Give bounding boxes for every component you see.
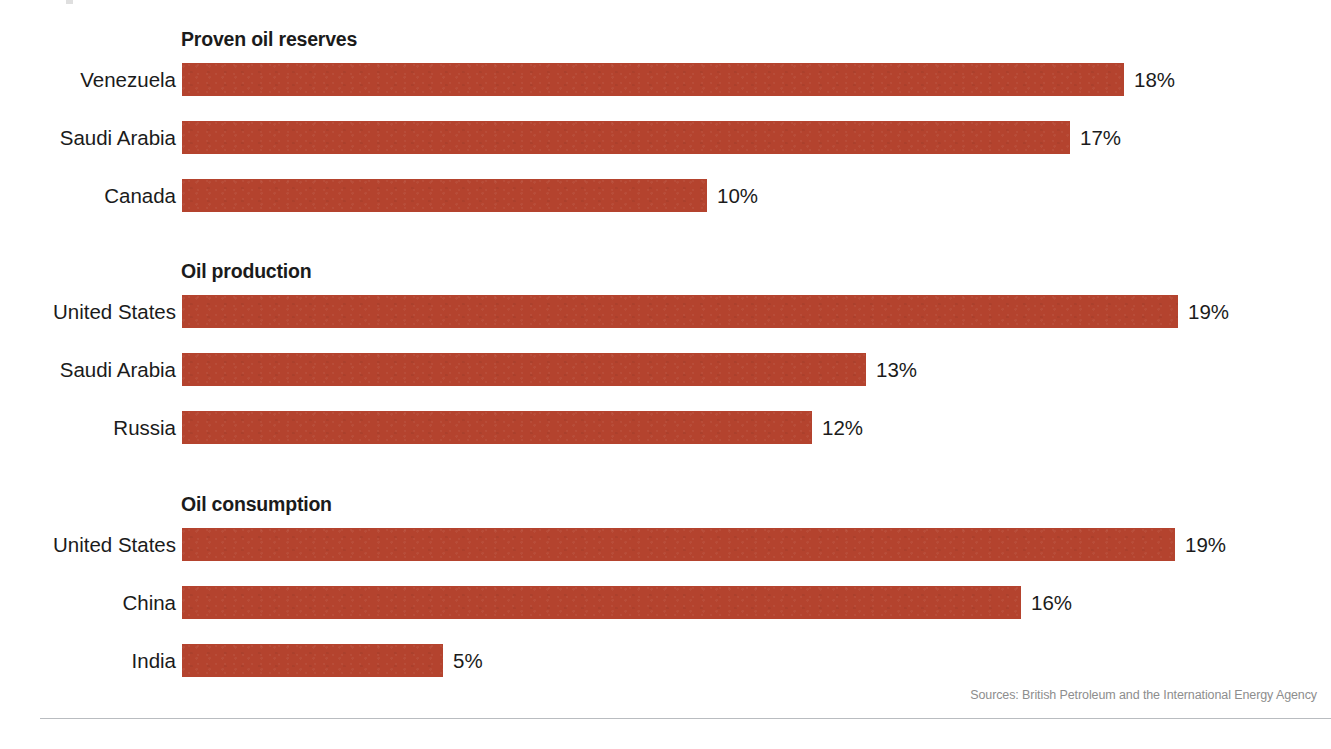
category-label: Saudi Arabia [60,353,176,386]
category-label: Russia [113,411,176,444]
value-label: 10% [717,179,758,212]
value-label: 13% [876,353,917,386]
bar-row: Saudi Arabia 13% [0,353,1331,386]
bar-united-states [182,295,1178,328]
panel-title-oil-consumption: Oil consumption [181,493,332,516]
bar-row: India 5% [0,644,1331,677]
bar-row: United States 19% [0,528,1331,561]
bar-russia [182,411,812,444]
category-label: Saudi Arabia [60,121,176,154]
bar-row: Russia 12% [0,411,1331,444]
sources-note: Sources: British Petroleum and the Inter… [970,688,1317,702]
bar-canada [182,179,707,212]
value-label: 18% [1134,63,1175,96]
bar-row: China 16% [0,586,1331,619]
value-label: 19% [1185,528,1226,561]
chart-panel-oil-production: Oil production United States 19% Saudi A… [0,260,1331,465]
value-label: 17% [1080,121,1121,154]
category-label: United States [53,528,176,561]
panel-title-proven-oil-reserves: Proven oil reserves [181,28,357,51]
panel-title-oil-production: Oil production [181,260,311,283]
bar-row: United States 19% [0,295,1331,328]
category-label: United States [53,295,176,328]
bar-saudi-arabia [182,121,1070,154]
bar-row: Venezuela 18% [0,63,1331,96]
bar-row: Saudi Arabia 17% [0,121,1331,154]
chart-panel-proven-oil-reserves: Proven oil reserves Venezuela 18% Saudi … [0,28,1331,233]
category-label: China [122,586,176,619]
category-label: Venezuela [80,63,176,96]
bar-row: Canada 10% [0,179,1331,212]
footer-divider [40,718,1331,719]
value-label: 5% [453,644,483,677]
oil-statistics-bar-chart: Proven oil reserves Venezuela 18% Saudi … [0,0,1331,749]
bar-united-states [182,528,1175,561]
bar-china [182,586,1021,619]
bar-saudi-arabia [182,353,866,386]
category-label: Canada [104,179,176,212]
page-artifact-mark [66,0,73,4]
value-label: 19% [1188,295,1229,328]
category-label: India [132,644,176,677]
value-label: 16% [1031,586,1072,619]
value-label: 12% [822,411,863,444]
chart-panel-oil-consumption: Oil consumption United States 19% China … [0,493,1331,698]
bar-india [182,644,443,677]
bar-venezuela [182,63,1124,96]
